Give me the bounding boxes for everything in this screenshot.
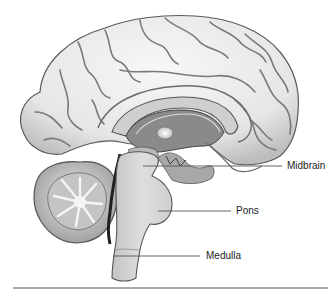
cerebellum bbox=[34, 162, 118, 243]
brainstem bbox=[109, 147, 215, 281]
brain-sagittal-diagram bbox=[0, 0, 336, 293]
label-medulla: Medulla bbox=[206, 250, 241, 262]
cerebrum bbox=[21, 16, 299, 172]
pons-region bbox=[112, 152, 172, 281]
label-pons: Pons bbox=[236, 205, 259, 217]
label-midbrain: Midbrain bbox=[287, 160, 325, 172]
